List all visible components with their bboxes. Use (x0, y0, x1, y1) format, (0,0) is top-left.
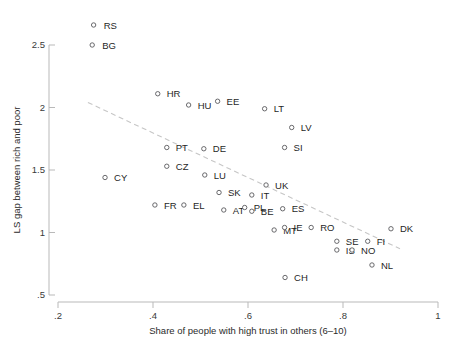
point-label: EL (193, 200, 205, 211)
point-marker[interactable] (280, 207, 284, 211)
x-axis-title: Share of people with high trust in other… (149, 325, 347, 336)
point-marker[interactable] (217, 190, 221, 194)
x-tick-label: 1 (435, 310, 440, 321)
point-label: CY (114, 172, 128, 183)
data-point[interactable]: CY (103, 172, 128, 183)
point-label: FR (164, 200, 177, 211)
point-marker[interactable] (153, 203, 157, 207)
point-marker[interactable] (264, 183, 268, 187)
data-point[interactable]: LV (290, 122, 313, 133)
point-label: EE (227, 96, 240, 107)
point-label: DE (213, 143, 226, 154)
x-tick-label: .2 (54, 310, 62, 321)
data-point[interactable]: RO (309, 222, 334, 233)
trend-line-group (88, 103, 400, 249)
y-tick-label: 2 (40, 102, 45, 113)
point-label: ES (292, 203, 305, 214)
y-tick-label: 1.5 (32, 164, 45, 175)
data-points-group: RSBGHRHUEELTLVPTDESICZCYLUUKSKITESFRELAT… (90, 20, 414, 284)
point-marker[interactable] (250, 209, 254, 213)
point-marker[interactable] (242, 205, 246, 209)
point-label: UK (275, 180, 289, 191)
scatter-chart: .511.522.5.2.4.6.81 RSBGHRHUEELTLVPTDESI… (0, 0, 460, 345)
x-tick-label: .6 (244, 310, 252, 321)
data-point[interactable]: CZ (165, 161, 189, 172)
data-point[interactable]: FR (153, 200, 177, 211)
point-label: IT (261, 190, 270, 201)
point-label: LV (301, 122, 313, 133)
data-point[interactable]: IT (250, 190, 270, 201)
data-point[interactable]: AT (222, 205, 245, 216)
point-label: SK (228, 187, 241, 198)
data-point[interactable]: SI (282, 142, 302, 153)
point-label: HU (198, 100, 212, 111)
data-point[interactable]: BG (90, 40, 116, 51)
point-label: NO (361, 245, 375, 256)
trend-line (88, 103, 400, 249)
point-marker[interactable] (165, 145, 169, 149)
point-marker[interactable] (290, 125, 294, 129)
point-marker[interactable] (370, 263, 374, 267)
data-point[interactable]: LU (203, 170, 226, 181)
point-marker[interactable] (389, 227, 393, 231)
point-label: BG (102, 40, 116, 51)
point-label: HR (167, 88, 181, 99)
y-tick-label: 1 (40, 227, 45, 238)
y-tick-label: .5 (37, 289, 45, 300)
point-label: LU (214, 170, 226, 181)
point-marker[interactable] (335, 248, 339, 252)
point-marker[interactable] (156, 92, 160, 96)
point-label: LT (274, 103, 285, 114)
point-label: SI (294, 142, 303, 153)
point-marker[interactable] (91, 23, 95, 27)
point-label: IE (294, 222, 303, 233)
data-point[interactable]: SK (217, 187, 242, 198)
data-point[interactable]: ES (280, 203, 304, 214)
data-point[interactable]: DE (202, 143, 226, 154)
point-label: NL (381, 260, 393, 271)
data-point[interactable]: EE (215, 96, 239, 107)
point-label: BE (261, 206, 274, 217)
point-label: FI (377, 236, 385, 247)
point-marker[interactable] (222, 208, 226, 212)
x-tick-label: .4 (149, 310, 157, 321)
data-point[interactable]: NL (370, 260, 393, 271)
point-marker[interactable] (90, 43, 94, 47)
point-marker[interactable] (203, 173, 207, 177)
data-point[interactable]: HR (156, 88, 181, 99)
point-marker[interactable] (366, 239, 370, 243)
point-marker[interactable] (202, 147, 206, 151)
data-point[interactable]: RS (91, 20, 116, 31)
data-point[interactable]: LT (262, 103, 284, 114)
point-marker[interactable] (335, 239, 339, 243)
y-axis-title: LS gap between rich and poor (11, 107, 22, 234)
point-marker[interactable] (215, 99, 219, 103)
data-point[interactable]: DK (389, 223, 414, 234)
point-marker[interactable] (272, 228, 276, 232)
point-marker[interactable] (103, 175, 107, 179)
axes-group: .511.522.5.2.4.6.81 (32, 39, 441, 321)
data-point[interactable]: HU (186, 100, 211, 111)
point-marker[interactable] (283, 275, 287, 279)
point-marker[interactable] (182, 203, 186, 207)
point-label: DK (400, 223, 414, 234)
x-tick-label: .8 (339, 310, 347, 321)
point-marker[interactable] (282, 145, 286, 149)
point-label: CZ (176, 161, 189, 172)
data-point[interactable]: CH (283, 272, 308, 283)
point-label: RO (320, 222, 334, 233)
point-marker[interactable] (165, 164, 169, 168)
point-label: PT (176, 142, 188, 153)
point-marker[interactable] (250, 193, 254, 197)
point-marker[interactable] (186, 103, 190, 107)
data-point[interactable]: PT (165, 142, 189, 153)
point-marker[interactable] (350, 248, 354, 252)
point-marker[interactable] (262, 107, 266, 111)
y-tick-label: 2.5 (32, 39, 45, 50)
point-label: CH (294, 272, 308, 283)
point-marker[interactable] (309, 225, 313, 229)
plot-area: .511.522.5.2.4.6.81 RSBGHRHUEELTLVPTDESI… (0, 0, 460, 345)
point-label: RS (104, 20, 117, 31)
point-marker[interactable] (282, 225, 286, 229)
data-point[interactable]: EL (182, 200, 205, 211)
